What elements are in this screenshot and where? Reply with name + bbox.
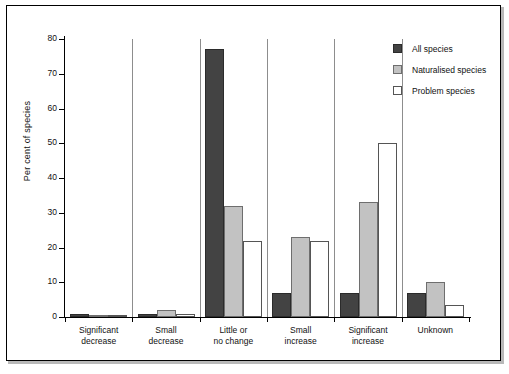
group-separator [132,39,133,317]
bar [359,202,378,317]
y-tick-80 [59,39,64,40]
bar [108,315,127,317]
bar [224,206,243,317]
y-tick-label-20: 20 [29,243,57,252]
x-tick [132,317,133,322]
y-tick-label-40: 40 [29,173,57,182]
legend-label: Problem species [412,86,475,96]
bar [378,143,397,317]
bar-group [272,39,329,317]
x-tick [334,317,335,322]
legend-swatch-icon [393,65,402,74]
y-tick-20 [59,248,64,249]
legend-label: Naturalised species [412,65,486,75]
legend-item[interactable]: All species [393,38,503,59]
y-tick-30 [59,213,64,214]
group-separator [267,39,268,317]
y-tick-label-0: 0 [29,312,57,321]
legend-swatch-icon [393,86,402,95]
x-tick [200,317,201,322]
bar [176,314,195,317]
x-tick [469,317,470,322]
category-label-line: Unknown [389,325,481,336]
category-label-line: increase [322,336,414,347]
bar [291,237,310,317]
bar-group [340,39,397,317]
group-separator [334,39,335,317]
bar [272,293,291,317]
y-tick-label-10: 10 [29,277,57,286]
chart-figure: Per cent of species 01020304050607080 Si… [0,0,509,374]
bar-group [70,39,127,317]
bar [70,314,89,317]
figure-frame: Per cent of species 01020304050607080 Si… [6,5,501,361]
bar [426,282,445,317]
legend-item[interactable]: Problem species [393,80,503,101]
bar [243,241,262,317]
bar [138,314,157,317]
y-tick-label-30: 30 [29,208,57,217]
y-tick-50 [59,143,64,144]
y-tick-label-70: 70 [29,69,57,78]
y-tick-label-60: 60 [29,104,57,113]
group-separator [200,39,201,317]
legend-label: All species [412,44,453,54]
y-tick-label-50: 50 [29,138,57,147]
legend-item[interactable]: Naturalised species [393,59,503,80]
x-tick [402,317,403,322]
bar-group [205,39,262,317]
bar [157,310,176,317]
legend-swatch-icon [393,44,402,53]
y-tick-60 [59,109,64,110]
bar [407,293,426,317]
y-tick-0 [59,317,64,318]
y-tick-70 [59,74,64,75]
category-label: Unknown [389,325,481,336]
y-tick-label-80: 80 [29,34,57,43]
bar [89,315,108,317]
bar [310,241,329,317]
x-tick [267,317,268,322]
bar [205,49,224,317]
bar [340,293,359,317]
bar [445,305,464,317]
x-tick [65,317,66,322]
y-tick-40 [59,178,64,179]
y-tick-10 [59,282,64,283]
bar-group [138,39,195,317]
legend: All speciesNaturalised speciesProblem sp… [393,38,503,101]
